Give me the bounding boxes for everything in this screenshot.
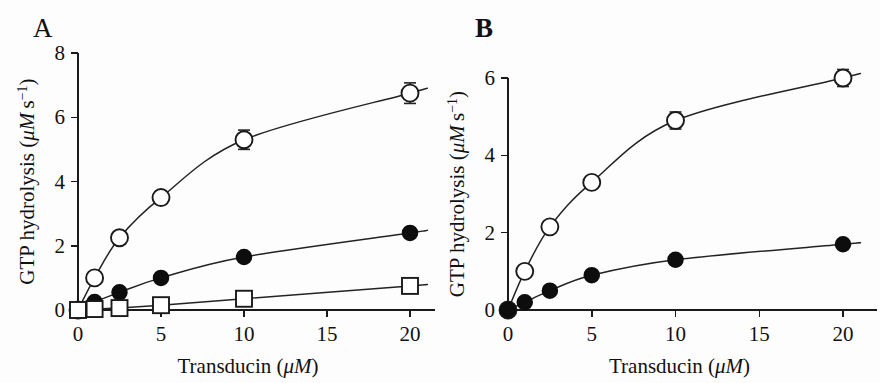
data-point-open-circle[interactable] (541, 218, 558, 235)
y-axis-title-unit-s: s (15, 100, 39, 112)
panel-a: A 0510152002468Transducin (μM)GTP hydrol… (0, 0, 440, 383)
data-point-filled-circle[interactable] (668, 252, 683, 267)
panel-a-plot: 0510152002468Transducin (μM)GTP hydrolys… (0, 0, 440, 383)
data-point-open-square[interactable] (112, 300, 128, 316)
data-point-open-circle[interactable] (153, 189, 170, 206)
y-axis-title-paren: ) (15, 78, 39, 85)
y-tick-label: 2 (55, 234, 66, 258)
x-tick-label: 0 (503, 322, 514, 346)
y-axis-title-exponent: −1 (445, 98, 460, 113)
series-curve (508, 74, 860, 310)
data-point-open-circle[interactable] (516, 263, 533, 280)
figure-root: A 0510152002468Transducin (μM)GTP hydrol… (0, 0, 880, 383)
y-axis-title: GTP hydrolysis (μM s−1) (15, 78, 40, 284)
data-point-filled-circle[interactable] (237, 249, 252, 264)
x-tick-label: 10 (665, 322, 686, 346)
data-point-open-square[interactable] (153, 297, 169, 313)
data-point-filled-circle[interactable] (501, 303, 516, 318)
y-axis-title: GTP hydrolysis (μM s−1) (445, 91, 470, 297)
data-point-open-circle[interactable] (236, 131, 253, 148)
data-point-open-circle[interactable] (86, 269, 103, 286)
x-tick-label: 20 (833, 322, 854, 346)
y-axis-title-text: GTP hydrolysis ( (445, 153, 469, 297)
x-tick-label: 5 (156, 322, 167, 346)
data-point-open-square[interactable] (70, 302, 86, 318)
y-axis-title-exponent: −1 (15, 85, 30, 100)
series-open-circle (500, 69, 861, 318)
x-tick-label: 15 (317, 322, 338, 346)
y-axis-title-text: GTP hydrolysis ( (15, 141, 39, 285)
data-point-open-circle[interactable] (835, 70, 852, 87)
data-point-filled-circle[interactable] (584, 268, 599, 283)
data-point-open-circle[interactable] (111, 229, 128, 246)
y-axis-title-paren: ) (445, 91, 469, 98)
data-point-filled-circle[interactable] (836, 237, 851, 252)
data-point-open-square[interactable] (402, 278, 418, 294)
x-axis-title-unit: μM (714, 354, 745, 378)
x-axis-title-text: Transducin ( (609, 354, 715, 378)
panel-b: B 051015200246Transducin (μM)GTP hydroly… (440, 0, 880, 383)
data-point-open-circle[interactable] (667, 112, 684, 129)
y-tick-label: 4 (485, 143, 496, 167)
x-axis-title-paren: ) (743, 354, 750, 378)
x-axis-title-text: Transducin ( (177, 354, 283, 378)
y-tick-label: 6 (485, 66, 496, 90)
x-axis-title: Transducin (μM) (177, 354, 318, 378)
data-point-filled-circle[interactable] (154, 270, 169, 285)
y-tick-label: 8 (55, 41, 66, 65)
y-tick-label: 4 (55, 170, 66, 194)
y-tick-label: 0 (485, 298, 496, 322)
x-tick-label: 10 (234, 322, 255, 346)
y-tick-label: 2 (485, 221, 496, 245)
series-curve (508, 243, 861, 310)
x-tick-label: 5 (587, 322, 598, 346)
data-point-open-circle[interactable] (402, 85, 419, 102)
x-tick-label: 0 (73, 322, 84, 346)
data-point-filled-circle[interactable] (403, 225, 418, 240)
x-tick-label: 15 (749, 322, 770, 346)
series-curve (78, 88, 427, 310)
data-point-open-circle[interactable] (583, 174, 600, 191)
series-open-circle (70, 83, 428, 319)
y-axis-title-unit-s: s (445, 113, 469, 125)
data-point-filled-circle[interactable] (112, 285, 127, 300)
data-point-filled-circle[interactable] (517, 295, 532, 310)
y-axis-title-unit: μM (445, 124, 469, 155)
data-point-open-square[interactable] (87, 301, 103, 317)
panel-b-plot: 051015200246Transducin (μM)GTP hydrolysi… (440, 0, 880, 383)
x-axis-title-unit: μM (282, 354, 313, 378)
data-point-filled-circle[interactable] (542, 283, 557, 298)
x-tick-label: 20 (400, 322, 421, 346)
x-axis-title: Transducin (μM) (609, 354, 750, 378)
y-axis-title-unit: μM (15, 111, 39, 142)
data-point-open-square[interactable] (236, 291, 252, 307)
y-tick-label: 0 (55, 298, 66, 322)
x-axis-title-paren: ) (312, 354, 319, 378)
y-tick-label: 6 (55, 105, 66, 129)
series-filled-circle (501, 237, 861, 318)
